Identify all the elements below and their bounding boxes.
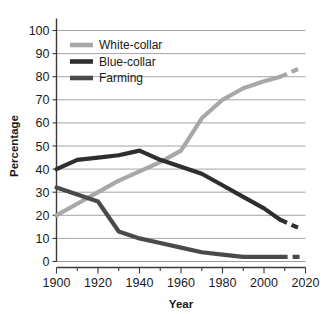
x-tick-label: 2000 [250,276,278,290]
x-tick-label: 1900 [43,276,71,290]
series-projection-blue-collar [281,220,302,229]
y-tick-label: 10 [36,232,50,246]
series-projection-white-collar [281,67,302,76]
y-tick-label: 60 [36,116,50,130]
series-line-blue-collar [57,151,281,220]
x-axis-ticks: 1900192019401960198020002020 [43,268,320,290]
y-tick-label: 0 [43,255,50,269]
y-tick-label: 100 [29,24,50,38]
y-tick-label: 80 [36,70,50,84]
y-tick-label: 90 [36,47,50,61]
x-tick-label: 1980 [209,276,237,290]
legend-label: Blue-collar [99,55,156,69]
y-tick-label: 20 [36,209,50,223]
grid-lines [57,31,306,262]
chart-canvas: 0102030405060708090100190019201940196019… [0,0,327,314]
occupation-trends-chart: 0102030405060708090100190019201940196019… [0,0,327,314]
legend-label: Farming [99,71,143,85]
y-tick-label: 50 [36,140,50,154]
x-tick-label: 1960 [167,276,195,290]
y-tick-label: 70 [36,93,50,107]
y-tick-label: 30 [36,186,50,200]
legend-label: White-collar [99,38,162,52]
legend: White-collarBlue-collarFarming [70,38,162,85]
x-tick-label: 1920 [84,276,112,290]
y-tick-label: 40 [36,163,50,177]
series-group [57,67,302,256]
y-axis-title: Percentage [8,115,20,177]
y-axis-ticks: 0102030405060708090100 [29,24,57,269]
x-tick-label: 2020 [292,276,320,290]
x-axis-title: Year [169,298,194,310]
x-tick-label: 1940 [126,276,154,290]
